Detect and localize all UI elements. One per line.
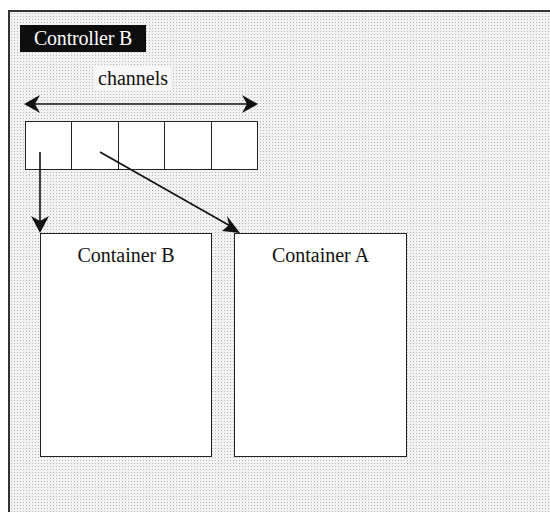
channel-cell-5 (212, 122, 257, 169)
channel-cell-1 (26, 122, 72, 169)
container-a-title: Container A (235, 244, 406, 267)
controller-label: Controller B (20, 25, 146, 52)
channel-cell-3 (119, 122, 165, 169)
channel-cell-4 (165, 122, 211, 169)
channel-cell-2 (72, 122, 118, 169)
container-b-box: Container B (40, 233, 212, 457)
channel-row (25, 121, 258, 170)
container-a-box: Container A (234, 233, 407, 457)
channels-label: channels (95, 66, 171, 90)
container-b-title: Container B (41, 244, 211, 267)
